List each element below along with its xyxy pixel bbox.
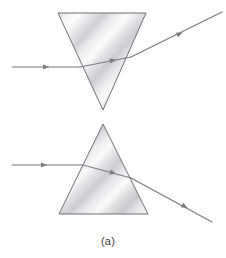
lower-prism-shape: [59, 124, 148, 214]
upper-exit-ray: [131, 12, 222, 57]
upper-prism-group: [58, 13, 146, 110]
upper-incident-arrowhead-icon: [43, 64, 49, 69]
lower-exit-ray: [131, 178, 212, 222]
figure-container: (a): [0, 0, 226, 258]
figure-caption: (a): [101, 235, 115, 247]
lower-incident-arrowhead-icon: [41, 162, 47, 167]
prism-refraction-diagram: (a): [0, 0, 226, 258]
lower-prism-group: [59, 124, 148, 214]
upper-prism-shape: [58, 13, 146, 110]
